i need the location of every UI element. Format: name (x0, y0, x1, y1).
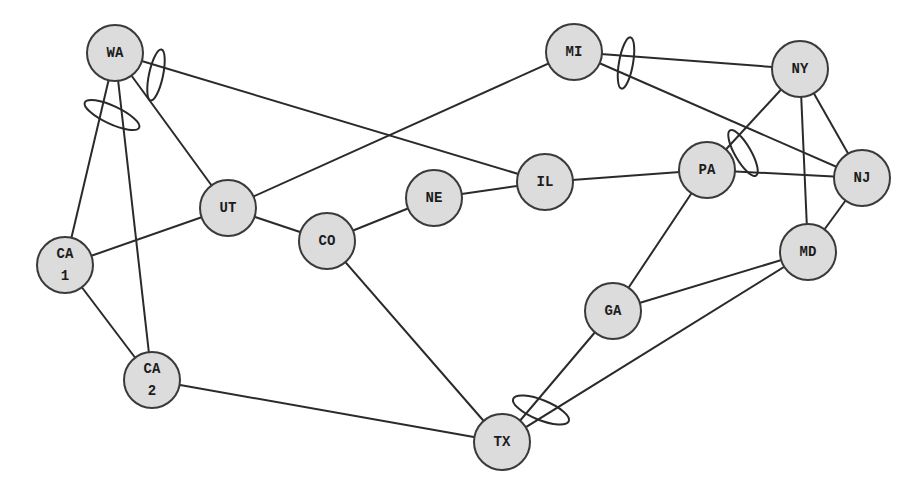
node-label: GA (605, 303, 622, 319)
node-label: TX (494, 434, 511, 450)
node-il: IL (517, 154, 573, 210)
node-label: 2 (148, 383, 156, 399)
node-nj: NJ (834, 150, 890, 206)
network-diagram: WACA1CA2UTCONEILMINYPANJMDGATX (0, 0, 919, 493)
node-pa: PA (679, 142, 735, 198)
node-ne: NE (406, 170, 462, 226)
node-label: IL (537, 174, 554, 190)
node-tx: TX (474, 414, 530, 470)
edge-ca2-tx (152, 380, 502, 442)
node-ut: UT (200, 180, 256, 236)
node-label: 1 (61, 268, 69, 284)
node-ga: GA (585, 283, 641, 339)
node-ny: NY (772, 41, 828, 97)
node-label: CA (57, 246, 74, 262)
node-label: NY (792, 61, 809, 77)
edge-md-ga (613, 252, 808, 311)
node-label: MD (800, 244, 817, 260)
node-label: CA (144, 361, 161, 377)
node-label: NJ (854, 170, 871, 186)
node-label: MI (566, 44, 583, 60)
link-group-ellipse-mi-2 (615, 36, 638, 90)
node-label: PA (699, 162, 716, 178)
edge-md-tx (502, 252, 808, 442)
edge-wa-ca1 (65, 53, 115, 265)
nodes-layer: WACA1CA2UTCONEILMINYPANJMDGATX (37, 24, 890, 470)
node-label: WA (107, 45, 124, 61)
node-ca2: CA2 (124, 352, 180, 408)
edge-co-tx (327, 241, 502, 442)
node-mi: MI (546, 24, 602, 80)
node-md: MD (780, 224, 836, 280)
edges-layer (65, 52, 862, 442)
link-groups-layer (81, 36, 763, 430)
link-group-ellipse-wa-0 (81, 94, 143, 136)
node-wa: WA (87, 25, 143, 81)
node-ca1: CA1 (37, 237, 93, 293)
edge-wa-ca2 (115, 53, 152, 380)
node-label: NE (426, 190, 443, 206)
link-group-ellipse-wa-1 (144, 48, 169, 102)
node-label: UT (220, 200, 237, 216)
node-co: CO (299, 213, 355, 269)
node-label: CO (319, 233, 336, 249)
